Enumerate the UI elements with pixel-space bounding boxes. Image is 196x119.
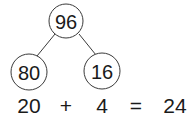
edge-root-to-right	[79, 34, 96, 55]
equation-result: 24	[163, 94, 187, 117]
right-child-label: 16	[91, 61, 113, 83]
number-bond-diagram: 96 80 16 20 + 4 = 24	[0, 0, 196, 119]
equation-term-addend-1: 20	[17, 94, 40, 117]
root-node-label: 96	[55, 11, 77, 33]
equation-row: 20 + 4 = 24	[17, 94, 187, 117]
right-child-node: 16	[84, 53, 120, 89]
edge-root-to-left	[37, 34, 55, 56]
left-child-node: 80	[11, 54, 47, 90]
equation-operator-plus: +	[60, 94, 72, 117]
equation-term-addend-2: 4	[96, 94, 108, 117]
equation-operator-equals: =	[130, 94, 142, 117]
root-node: 96	[49, 4, 83, 38]
left-child-label: 80	[18, 62, 40, 84]
